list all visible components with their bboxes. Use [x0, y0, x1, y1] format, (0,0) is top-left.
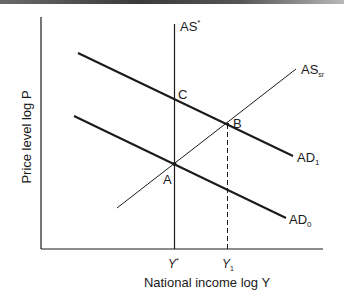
- ad0-curve: [74, 116, 286, 218]
- as-sr-label: ASsr: [301, 62, 325, 78]
- point-b-marker: [226, 122, 229, 125]
- ad0-label: AD0: [289, 212, 312, 229]
- x-tick-y1: Y1: [222, 257, 234, 272]
- y-axis-title: Price level log P: [19, 90, 34, 183]
- x-axis-title: National income log Y: [144, 275, 271, 290]
- ad1-curve: [78, 53, 293, 156]
- point-b-label: B: [233, 116, 242, 131]
- point-a-marker: [173, 162, 177, 166]
- x-tick-ystar: Y*: [168, 257, 179, 271]
- ad-as-diagram: AS* ASsr AD1 AD0 C B A Y* Y1 National in…: [0, 0, 344, 300]
- ad1-label: AD1: [297, 150, 320, 167]
- point-c-label: C: [178, 87, 187, 102]
- as-star-label: AS*: [180, 18, 200, 34]
- point-a-label: A: [163, 172, 172, 187]
- as-sr-curve: [117, 69, 296, 208]
